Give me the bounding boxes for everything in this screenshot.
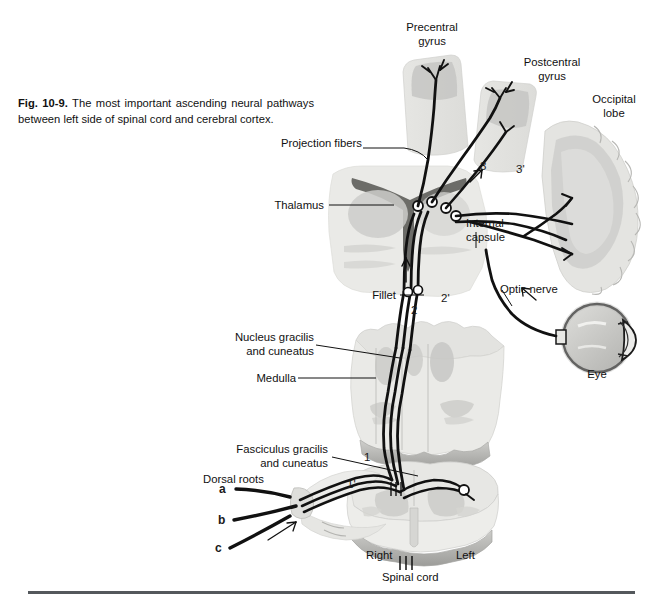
- label-spinal-cord: Spinal cord: [382, 570, 439, 584]
- label-fillet: Fillet: [326, 288, 396, 302]
- marker-2-prime: 2': [441, 292, 450, 304]
- fiber-root-a: [236, 489, 290, 497]
- marker-2: 2: [411, 304, 417, 316]
- marker-3: 3: [480, 160, 486, 172]
- label-postcentral-gyrus: Postcentral gyrus: [502, 55, 602, 83]
- eye-shape: [556, 304, 636, 372]
- label-right: Right: [366, 548, 392, 562]
- marker-1-prime: 1': [347, 478, 356, 490]
- label-projection-fibers: Projection fibers: [240, 136, 362, 150]
- label-internal-capsule: Internal capsule: [466, 216, 505, 244]
- label-optic-nerve: Optic nerve: [500, 282, 558, 296]
- label-eye: Eye: [567, 367, 627, 381]
- label-fasciculus-gracilis-cuneatus: Fasciculus gracilis and cuneatus: [176, 442, 328, 470]
- page-divider-rule: [28, 591, 635, 594]
- marker-root-c: c: [215, 541, 222, 555]
- label-occipital-lobe: Occipital lobe: [571, 92, 657, 120]
- medulla-block: [351, 321, 504, 469]
- label-dorsal-roots: Dorsal roots: [203, 472, 264, 486]
- label-nucleus-gracilis-cuneatus: Nucleus gracilis and cuneatus: [176, 330, 314, 358]
- label-thalamus: Thalamus: [222, 198, 324, 212]
- marker-1: 1: [364, 451, 370, 463]
- label-precentral-gyrus: Precentral gyrus: [384, 20, 480, 48]
- marker-root-a: a: [219, 482, 226, 496]
- marker-root-b: b: [218, 513, 225, 527]
- label-medulla: Medulla: [212, 371, 296, 385]
- figure-anatomical-diagram: Fig. 10-9. The most important ascending …: [0, 0, 672, 603]
- occipital-lobe-shape: [542, 121, 640, 294]
- marker-3-prime: 3': [516, 163, 525, 175]
- label-left: Left: [456, 548, 475, 562]
